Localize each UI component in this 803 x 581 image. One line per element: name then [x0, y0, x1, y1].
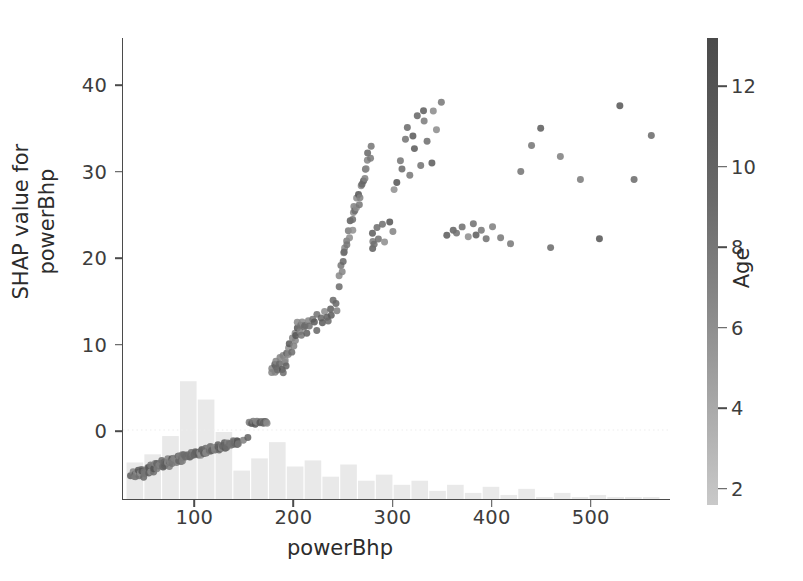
- colorbar-tick-mark: [718, 327, 727, 329]
- scatter-point: [340, 258, 347, 265]
- scatter-point: [483, 235, 490, 242]
- x-tick-label: 100: [149, 506, 239, 529]
- histogram-bar: [483, 487, 500, 499]
- scatter-point: [363, 165, 370, 172]
- colorbar-tick-label: 4: [731, 397, 743, 420]
- scatter-point: [648, 132, 655, 139]
- histogram-bar: [554, 493, 571, 499]
- x-tick-label: 300: [348, 506, 438, 529]
- colorbar-title: Age: [730, 198, 754, 338]
- colorbar-tick-mark: [718, 488, 727, 490]
- scatter-point: [417, 162, 424, 169]
- scatter-point: [336, 283, 343, 290]
- scatter-point: [430, 107, 437, 114]
- x-tick-label: 400: [447, 506, 537, 529]
- histogram-bar: [500, 495, 517, 499]
- scatter-point: [631, 176, 638, 183]
- scatter-point: [393, 179, 400, 186]
- scatter-point: [616, 102, 623, 109]
- scatter-point: [409, 132, 416, 139]
- histogram-bar: [340, 464, 357, 499]
- colorbar: [707, 38, 718, 505]
- scatter-point: [328, 312, 335, 319]
- histogram-bar: [536, 497, 553, 499]
- scatter-svg: [123, 38, 670, 499]
- x-tick-label: 200: [248, 506, 338, 529]
- histogram-bar: [322, 477, 339, 499]
- histogram-bar: [465, 493, 482, 499]
- scatter-point: [391, 186, 398, 193]
- y-axis-label-line1: SHAP value for: [9, 144, 33, 300]
- scatter-point: [411, 145, 418, 152]
- x-axis-label: powerBhp: [0, 536, 680, 560]
- histogram-bar: [269, 442, 286, 499]
- scatter-point: [453, 230, 460, 237]
- histogram-bar: [589, 495, 606, 499]
- scatter-point: [537, 125, 544, 132]
- scatter-point: [346, 234, 353, 241]
- histogram-bar: [358, 481, 375, 499]
- scatter-canvas: [123, 38, 670, 499]
- plot-axes: [122, 38, 670, 500]
- scatter-point: [517, 168, 524, 175]
- scatter-point: [402, 136, 409, 143]
- scatter-point: [356, 194, 363, 201]
- scatter-point: [339, 268, 346, 275]
- y-axis-label: SHAP value for powerBhp: [9, 92, 60, 352]
- histogram-bar: [572, 497, 589, 499]
- scatter-point: [428, 159, 435, 166]
- scatter-point: [327, 306, 334, 313]
- scatter-point: [303, 330, 310, 337]
- y-tick-label: 0: [0, 419, 120, 442]
- scatter-point: [497, 234, 504, 241]
- scatter-point: [361, 175, 368, 182]
- scatter-point: [547, 244, 554, 251]
- histogram-bar: [643, 497, 660, 499]
- scatter-point: [459, 223, 466, 230]
- scatter-point: [288, 349, 295, 356]
- figure-root: 010203040 100200300400500 powerBhp SHAP …: [0, 0, 803, 581]
- scatter-point: [438, 99, 445, 106]
- scatter-point: [389, 228, 396, 235]
- scatter-point: [311, 318, 318, 325]
- histogram-bar: [251, 458, 268, 499]
- scatter-point: [332, 300, 339, 307]
- scatter-point: [404, 124, 411, 131]
- histogram-bar: [518, 489, 535, 499]
- histogram-bar: [180, 381, 197, 499]
- scatter-point: [280, 369, 287, 376]
- histogram-bar: [233, 471, 250, 499]
- scatter-point: [369, 230, 376, 237]
- scatter-point: [577, 176, 584, 183]
- colorbar-tick-mark: [718, 86, 727, 88]
- colorbar-tick-mark: [718, 166, 727, 168]
- scatter-point: [333, 307, 340, 314]
- scatter-point: [379, 221, 386, 228]
- histogram-bar: [394, 485, 411, 499]
- scatter-point: [349, 227, 356, 234]
- scatter-point: [424, 138, 431, 145]
- scatter-point: [343, 241, 350, 248]
- histogram-bar: [607, 497, 624, 499]
- scatter-point: [367, 155, 374, 162]
- scatter-point: [406, 172, 413, 179]
- scatter-point: [420, 107, 427, 114]
- scatter-point: [433, 126, 440, 133]
- histogram-bar: [447, 485, 464, 499]
- histogram-bar: [376, 475, 393, 499]
- scatter-point: [356, 201, 363, 208]
- histogram-bar: [429, 491, 446, 499]
- scatter-point: [244, 434, 251, 441]
- y-axis-label-line2: powerBhp: [35, 169, 59, 275]
- density-histogram: [127, 381, 660, 499]
- scatter-point: [381, 239, 388, 246]
- scatter-point: [443, 232, 450, 239]
- scatter-point: [507, 240, 514, 247]
- colorbar-tick-label: 12: [731, 75, 756, 98]
- scatter-point: [596, 235, 603, 242]
- scatter-point: [398, 165, 405, 172]
- scatter-point: [283, 363, 290, 370]
- scatter-point: [465, 233, 472, 240]
- scatter-point: [421, 117, 428, 124]
- scatter-point: [386, 219, 393, 226]
